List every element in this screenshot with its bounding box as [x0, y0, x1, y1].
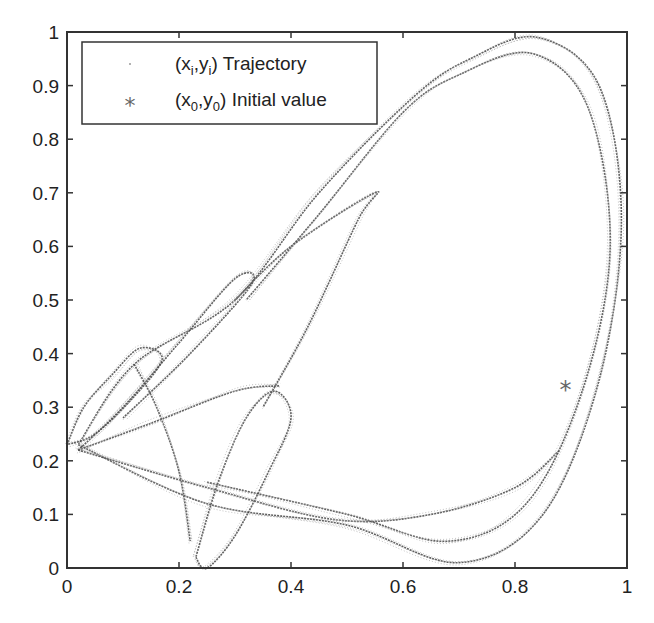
- x-tick-label: 0.6: [390, 576, 416, 597]
- y-tick-label: 0.2: [33, 451, 59, 472]
- trajectory-path: [235, 192, 379, 408]
- trajectory-path: [77, 448, 561, 520]
- y-tick-label: 0.8: [33, 129, 59, 150]
- y-tick-label: 0.7: [33, 183, 59, 204]
- y-tick-label: 0.5: [33, 290, 59, 311]
- y-tick-label: 0.3: [33, 397, 59, 418]
- x-tick-label: 0.4: [278, 576, 305, 597]
- trajectory-legend-marker: [129, 63, 131, 65]
- x-tick-label: 0.2: [166, 576, 192, 597]
- x-tick-label: 0.8: [502, 576, 528, 597]
- x-tick-label: 1: [622, 576, 633, 597]
- trajectory-path: [193, 391, 289, 569]
- trajectory-path: [233, 192, 377, 405]
- trajectory-path: [134, 364, 190, 541]
- y-tick-label: 0.4: [33, 344, 60, 365]
- chart-figure: * 00.20.40.60.81 00.10.20.30.40.50.60.70…: [0, 0, 654, 623]
- trajectory-path: [207, 53, 611, 543]
- y-tick-label: 0.1: [33, 504, 59, 525]
- initial-value-marker: *: [559, 376, 571, 404]
- y-tick-label: 0: [48, 558, 59, 579]
- y-tick-label: 0.9: [33, 76, 59, 97]
- trajectory-path: [133, 366, 192, 543]
- trajectory-path: [78, 271, 252, 448]
- trajectory-path: [78, 450, 560, 522]
- legend: (xi,yi) Trajectory * (x0,y0) Initial val…: [82, 42, 377, 124]
- y-tick-label: 0.6: [33, 236, 59, 257]
- trajectory-path: [194, 394, 291, 568]
- trajectory-path: [67, 348, 162, 445]
- asterisk-icon: *: [125, 93, 136, 118]
- trajectory-path: [81, 384, 278, 449]
- x-tick-label: 0: [62, 576, 73, 597]
- trajectory-path: [193, 393, 293, 568]
- trajectory-path: [137, 361, 192, 539]
- trajectory-path: [68, 350, 165, 448]
- trajectory-path: [208, 55, 607, 544]
- trajectory-path: [135, 363, 189, 544]
- y-tick-label: 1: [48, 22, 59, 43]
- trajectory-path: [76, 448, 560, 522]
- trajectory-path: [196, 391, 291, 569]
- trajectory-path: [66, 345, 160, 445]
- trajectory-path: [204, 52, 609, 540]
